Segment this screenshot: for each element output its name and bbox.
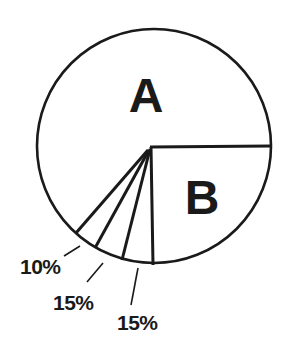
slice-label-a: A: [129, 69, 164, 122]
pct-label-10: 10%: [20, 255, 61, 278]
leader-line-15-bottom: [131, 268, 138, 305]
pct-label-15-left: 15%: [53, 291, 94, 314]
leader-line-10: [64, 246, 80, 256]
slice-divider-b-top: [150, 146, 271, 147]
slice-divider-b-bottom: [151, 147, 153, 265]
slice-label-b: B: [185, 171, 220, 224]
pie-chart: A B 10% 15% 15%: [0, 0, 287, 351]
leader-line-15-left: [87, 263, 103, 282]
pct-label-15-bottom: 15%: [117, 311, 158, 334]
